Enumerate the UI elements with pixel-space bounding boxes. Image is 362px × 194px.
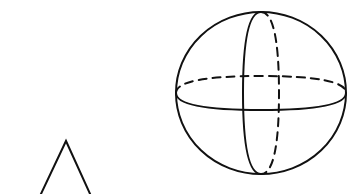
cone-sides [40, 141, 91, 194]
sphere-equator-back [176, 76, 346, 93]
sphere-meridian-front [243, 12, 261, 174]
sphere-meridian-back [261, 12, 279, 174]
cone [40, 141, 91, 194]
diagram-canvas [0, 0, 362, 194]
sphere-outline [176, 12, 346, 174]
sphere [176, 12, 346, 174]
sphere-equator-front [176, 93, 346, 110]
